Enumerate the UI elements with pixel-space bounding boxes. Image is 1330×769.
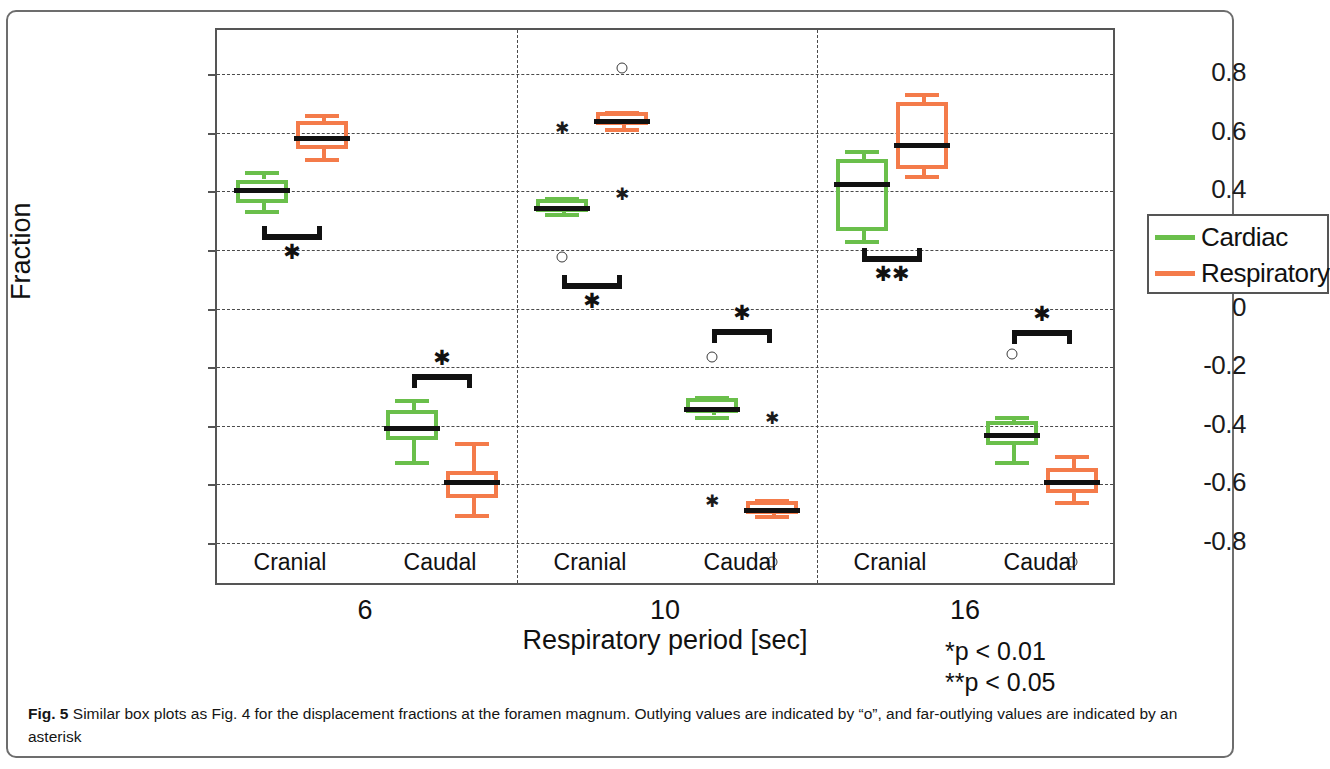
legend-item-respiratory: Respiratory [1155,255,1321,291]
p-value-line-1: *p < 0.01 [945,636,1056,667]
significance-bracket [262,226,322,240]
boxplot-lower-whisker [1072,493,1076,500]
x-group-label: 16 [950,595,980,626]
legend-swatch-respiratory [1155,271,1195,276]
significance-marker: ✱ [283,242,301,263]
significance-bracket [1012,330,1072,344]
chart-legend: Cardiac Respiratory [1147,214,1329,294]
significance-marker: ✱✱ [874,264,909,285]
figure-caption-text: Similar box plots as Fig. 4 for the disp… [28,705,1177,745]
x-subgroup-label: Cranial [854,549,927,576]
significance-marker: ✱ [1033,304,1051,325]
legend-label-respiratory: Respiratory [1201,258,1330,289]
legend-swatch-cardiac [1155,235,1195,240]
boxplot-upper-cap [1055,455,1089,459]
p-value-note: *p < 0.01 **p < 0.05 [945,636,1056,697]
x-subgroup-label: Cranial [254,549,327,576]
boxplot-lower-cap [1055,501,1089,505]
figure-caption-label: Fig. 5 [28,705,68,722]
significance-bracket [712,329,772,343]
y-tick-mark [208,543,217,545]
x-subgroup-label: Caudal [404,549,477,576]
y-tick-mark [208,133,217,135]
significance-marker: ✱ [733,303,751,324]
p-value-line-2: **p < 0.05 [945,667,1056,698]
boxplot-series-layer: ✱✱✱✱ [217,30,1113,583]
boxplot-box [217,30,1113,583]
y-axis-title: Fraction [6,202,37,300]
x-group-label: 6 [357,595,372,626]
plot-area: ✱✱✱✱ ✱✱✱✱✱✱✱ Cardiac Respiratory [215,28,1115,585]
x-subgroup-label: Caudal [1004,549,1077,576]
y-tick-mark [208,367,217,369]
legend-item-cardiac: Cardiac [1155,219,1321,255]
figure-caption: Fig. 5 Similar box plots as Fig. 4 for t… [28,702,1213,749]
y-tick-mark [208,426,217,428]
y-tick-mark [208,309,217,311]
significance-marker: ✱ [433,348,451,369]
x-subgroup-label: Cranial [554,549,627,576]
y-tick-mark [208,191,217,193]
boxplot-median-line [1044,480,1100,485]
significance-bracket [862,248,922,262]
significance-marker: ✱ [583,291,601,312]
x-group-label: 10 [650,595,680,626]
y-tick-mark [208,74,217,76]
y-tick-mark [208,484,217,486]
significance-bracket [412,374,472,388]
significance-bracket [562,275,622,289]
x-subgroup-label: Caudal [704,549,777,576]
legend-label-cardiac: Cardiac [1201,222,1288,253]
y-tick-mark [208,250,217,252]
x-axis-title: Respiratory period [sec] [522,625,807,656]
